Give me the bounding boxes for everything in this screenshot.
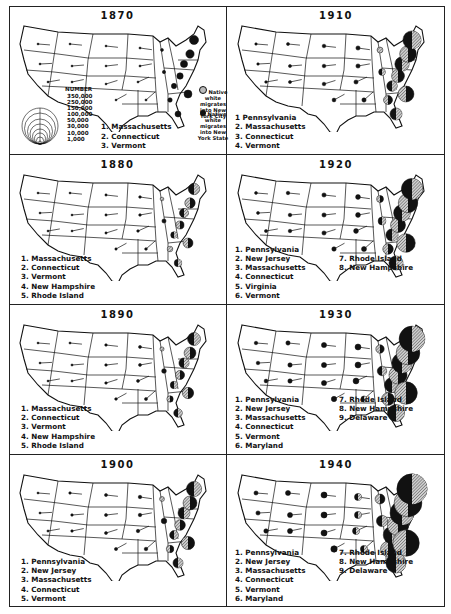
- state-rank-item: 1. Massachusetts: [21, 254, 95, 263]
- legend-number-title: NUMBER: [65, 86, 92, 92]
- state-rank-item: 3. Massachusetts: [235, 263, 305, 272]
- state-rank-item: 1. Massachusetts: [21, 404, 95, 413]
- map-panel-1940: 19401. Pennsylvania2. New Jersey3. Massa…: [227, 455, 445, 607]
- state-rank-list: 1. Pennsylvania2. New Jersey3. Massachus…: [21, 557, 91, 603]
- state-rank-list: 1. Pennsylvania2. New Jersey3. Massachus…: [235, 245, 305, 300]
- state-rank-item: 2. Connecticut: [21, 263, 95, 272]
- state-rank-list: 1. Pennsylvania2. New Jersey3. Massachus…: [235, 548, 305, 603]
- map-panel-1910: 19101 Pennsylvania2. Massachusetts3. Con…: [227, 6, 445, 155]
- state-rank-item: 3. Vermont: [21, 422, 95, 431]
- map-panel-1890: 18901. Massachusetts2. Connecticut3. Ver…: [9, 305, 227, 455]
- state-rank-item: 2. New Jersey: [235, 254, 305, 263]
- map-panel-1900: 19001. Pennsylvania2. New Jersey3. Massa…: [9, 455, 227, 607]
- nested-circles-icon: [21, 102, 61, 146]
- state-rank-list-continued: 7. Rhode Island8. New Hampshire9. Delawa…: [339, 395, 413, 423]
- state-rank-item: 7. Rhode Island: [339, 548, 413, 557]
- legend-size-label: 30,000: [67, 123, 92, 129]
- state-rank-item: 9. Delaware: [339, 413, 413, 422]
- state-rank-item: 4. Connecticut: [21, 585, 91, 594]
- state-rank-item: 4. Connecticut: [235, 272, 305, 281]
- state-rank-item: 1. Massachusetts: [101, 122, 171, 131]
- state-rank-item: 8. New Hampshire: [339, 404, 413, 413]
- state-rank-item: 2. New Jersey: [235, 404, 305, 413]
- state-rank-item: 8. New Hampshire: [339, 557, 413, 566]
- state-rank-item: 2. Connecticut: [21, 413, 95, 422]
- state-rank-list-continued: 7. Rhode Island8. New Hampshire9. Delawa…: [339, 548, 413, 576]
- state-rank-item: 3. Massachusetts: [235, 413, 305, 422]
- size-legend: NUMBER350,000250,000150,000100,00050,000…: [17, 92, 97, 152]
- state-rank-item: 7. Rhode Island: [339, 254, 413, 263]
- map-panel-1880: 18801. Massachusetts2. Connecticut3. Ver…: [9, 155, 227, 305]
- state-rank-list: 1. Massachusetts2. Connecticut3. Vermont…: [21, 404, 95, 450]
- hatched-circle-icon: [199, 86, 207, 94]
- legend-size-label: 1,000: [67, 136, 92, 142]
- state-rank-item: 2. New Jersey: [235, 557, 305, 566]
- state-rank-item: 2. Connecticut: [101, 132, 171, 141]
- state-rank-item: 1. Pennsylvania: [21, 557, 91, 566]
- state-rank-item: 1. Pennsylvania: [235, 395, 305, 404]
- state-rank-item: 2. New Jersey: [21, 566, 91, 575]
- state-rank-item: 7. Rhode Island: [339, 395, 413, 404]
- map-panel-1920: 19201. Pennsylvania2. New Jersey3. Massa…: [227, 155, 445, 305]
- state-rank-item: 5. Rhode Island: [21, 291, 95, 300]
- state-rank-item: 9. Delaware: [339, 566, 413, 575]
- state-rank-item: 6. Maryland: [235, 594, 305, 603]
- legend-size-label: 10,000: [67, 130, 92, 136]
- solid-circle-icon: [200, 110, 206, 116]
- state-rank-item: 3. Massachusetts: [235, 566, 305, 575]
- state-rank-item: 5. Vermont: [235, 585, 305, 594]
- state-rank-item: 1 Pennsylvania: [235, 113, 305, 122]
- state-rank-item: 4. Vermont: [235, 141, 305, 150]
- state-rank-item: 4. Connecticut: [235, 422, 305, 431]
- state-rank-item: 1. Pennsylvania: [235, 548, 305, 557]
- state-rank-list: 1. Massachusetts2. Connecticut3. Vermont…: [21, 254, 95, 300]
- map-panel-1930: 19301. Pennsylvania2. New Jersey3. Massa…: [227, 305, 445, 455]
- state-rank-item: 6. Vermont: [235, 291, 305, 300]
- state-rank-list: 1 Pennsylvania2. Massachusetts3. Connect…: [235, 113, 305, 150]
- state-rank-item: 5. Vermont: [21, 594, 91, 603]
- state-rank-item: 5. Virginia: [235, 282, 305, 291]
- state-rank-list: 1. Pennsylvania2. New Jersey3. Massachus…: [235, 395, 305, 450]
- state-rank-item: 3. Vermont: [101, 141, 171, 150]
- state-rank-item: 4. Connecticut: [235, 575, 305, 584]
- state-rank-item: 5. Rhode Island: [21, 441, 95, 450]
- map-panel-1870: 18701. Massachusetts2. Connecticut3. Ver…: [9, 6, 227, 155]
- state-rank-item: 3. Massachusetts: [21, 575, 91, 584]
- state-rank-item: 3. Connecticut: [235, 132, 305, 141]
- state-rank-item: 3. Vermont: [21, 272, 95, 281]
- state-rank-list: 1. Massachusetts2. Connecticut3. Vermont: [101, 122, 171, 150]
- state-rank-item: 6. Maryland: [235, 441, 305, 450]
- state-rank-item: 4. New Hampshire: [21, 432, 95, 441]
- legend-state-key: Native white migrates into New York Stat…: [195, 110, 231, 141]
- state-rank-item: 1. Pennsylvania: [235, 245, 305, 254]
- state-rank-list-continued: 7. Rhode Island8. New Hampshire: [339, 254, 413, 272]
- state-rank-item: 5. Vermont: [235, 432, 305, 441]
- state-rank-item: 4. New Hampshire: [21, 282, 95, 291]
- state-rank-item: 2. Massachusetts: [235, 122, 305, 131]
- state-rank-item: 8. New Hampshire: [339, 263, 413, 272]
